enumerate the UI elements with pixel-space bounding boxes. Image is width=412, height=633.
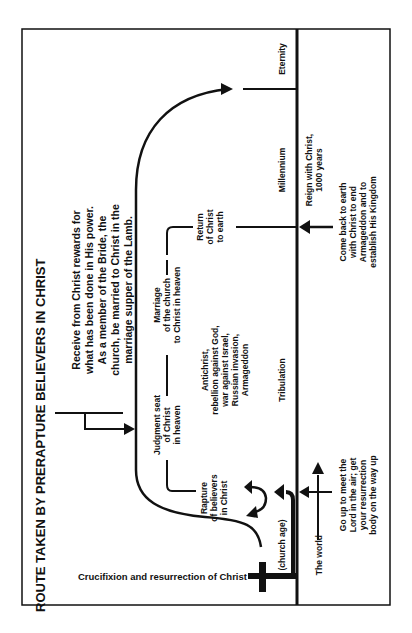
- event-marriage: Marriage of the church to Christ in heav…: [152, 267, 182, 344]
- event-judgment-seat: Judgment seat of Christ in heaven: [152, 395, 182, 455]
- rewards-note: Receive from Christ rewards for what has…: [70, 204, 134, 376]
- period-millennium: Millennium: [277, 147, 287, 192]
- event-return: Return of Christ to earth: [195, 209, 225, 244]
- svg-text:rebellion against God,: rebellion against God,: [210, 325, 220, 414]
- svg-text:of the church: of the church: [162, 278, 172, 332]
- rewards-arrowhead: [124, 423, 135, 435]
- rapture-loop-arrowhead-bottom: [246, 506, 258, 518]
- svg-text:Marriage: Marriage: [152, 287, 162, 323]
- svg-text:Come back to earth: Come back to earth: [338, 183, 348, 262]
- period-eternity: Eternity: [277, 43, 287, 75]
- svg-text:with Christ to end: with Christ to end: [348, 186, 358, 259]
- rewards-bracket-stem: [85, 413, 125, 429]
- svg-text:As a member of the Bride, the: As a member of the Bride, the: [96, 215, 108, 364]
- svg-text:Judgment seat: Judgment seat: [152, 395, 162, 455]
- svg-text:Antichrist,: Antichrist,: [200, 349, 210, 391]
- svg-text:Rapture: Rapture: [199, 482, 209, 514]
- diagram-title: ROUTE TAKEN BY PRERAPTURE BELIEVERS IN C…: [33, 258, 48, 612]
- svg-text:Russian invasion,: Russian invasion,: [230, 334, 240, 406]
- svg-text:Return: Return: [195, 213, 205, 240]
- church-age-arrowhead: [274, 484, 284, 500]
- route-diagram: ROUTE TAKEN BY PRERAPTURE BELIEVERS IN C…: [0, 0, 412, 633]
- come-back-arrowhead: [299, 220, 310, 234]
- svg-text:your resurrection: your resurrection: [358, 460, 368, 530]
- rapture-loop-arrowhead-top: [244, 480, 252, 494]
- label-the-world: The world: [314, 535, 324, 575]
- svg-text:war against Israel,: war against Israel,: [220, 333, 230, 408]
- svg-text:what has been done in His powe: what has been done in His power.: [83, 206, 95, 375]
- rapture-bracket: [167, 460, 196, 491]
- come-back-label: Come back to earth with Christ to end Ar…: [338, 176, 378, 268]
- svg-text:body on the way up: body on the way up: [368, 455, 378, 534]
- period-tribulation: Tribulation: [277, 358, 287, 401]
- go-up-label: Go up to meet the Lord in the air; get y…: [338, 455, 378, 534]
- svg-text:to earth: to earth: [215, 211, 225, 242]
- church-age-line: [286, 492, 293, 576]
- svg-text:Lord in the air; get: Lord in the air; get: [348, 458, 358, 533]
- crucifixion-label: Crucifixion and resurrection of Christ: [78, 571, 248, 582]
- svg-text:marriage supper of the Lamb.: marriage supper of the Lamb.: [122, 216, 134, 364]
- cross-icon: [248, 562, 297, 592]
- svg-text:Go up to meet the: Go up to meet the: [338, 459, 348, 532]
- svg-text:in Christ: in Christ: [219, 481, 229, 516]
- svg-text:to Christ in heaven: to Christ in heaven: [172, 267, 182, 344]
- event-rapture: Rapture of believers in Christ: [199, 474, 229, 522]
- go-up-arrowhead: [312, 462, 324, 474]
- svg-text:in heaven: in heaven: [172, 405, 182, 444]
- svg-text:of Christ: of Christ: [205, 209, 215, 244]
- svg-text:of believers: of believers: [209, 474, 219, 522]
- route-curve-arrowhead: [221, 83, 233, 95]
- return-bracket: [167, 227, 193, 255]
- svg-text:of Christ: of Christ: [162, 407, 172, 442]
- period-church-age: (church age): [277, 519, 287, 570]
- svg-text:church, be married to Christ i: church, be married to Christ in the: [109, 204, 121, 376]
- svg-text:Armageddon: Armageddon: [240, 344, 250, 396]
- world-left-arrowhead: [299, 486, 309, 498]
- svg-text:1000 years: 1000 years: [314, 148, 324, 192]
- svg-text:Armageddon and to: Armageddon and to: [358, 182, 368, 262]
- tribulation-events: Antichrist, rebellion against God, war a…: [200, 325, 250, 414]
- svg-text:establish His Kingdom: establish His Kingdom: [368, 176, 378, 268]
- svg-text:Receive from Christ rewards fo: Receive from Christ rewards for: [70, 210, 82, 369]
- svg-text:Reign with Christ,: Reign with Christ,: [304, 134, 314, 206]
- rapture-loop: [250, 487, 266, 512]
- reign-label: Reign with Christ, 1000 years: [304, 134, 324, 206]
